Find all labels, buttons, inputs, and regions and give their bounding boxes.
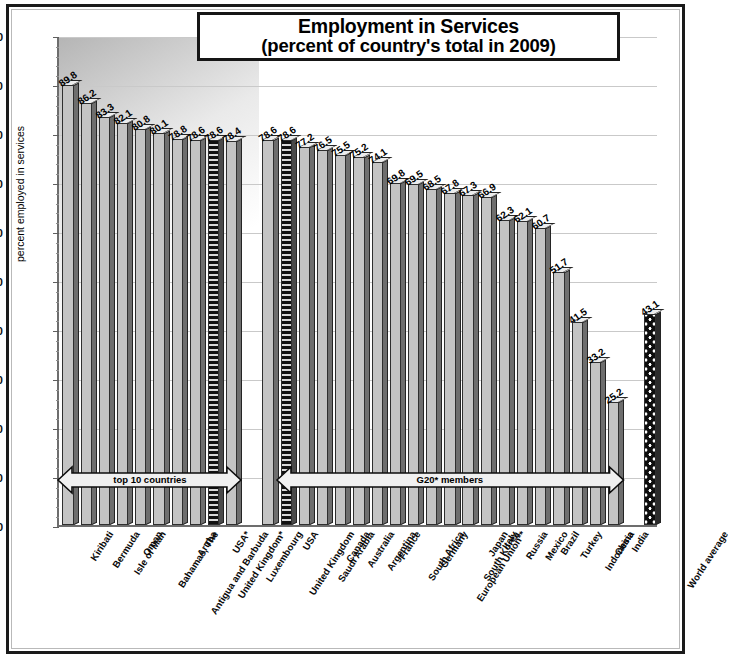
y-axis-minor-tick (56, 204, 59, 205)
bar-front-face (572, 322, 583, 525)
y-axis-minor-tick (56, 498, 59, 499)
y-axis-minor-tick (56, 507, 59, 508)
bar[interactable] (99, 117, 110, 525)
bar-side-face (656, 311, 661, 525)
y-axis-minor-tick (56, 458, 59, 459)
y-axis-minor-tick (56, 370, 59, 371)
y-axis-tick (53, 135, 59, 136)
bar-front-face (608, 402, 619, 525)
bar-slot (335, 37, 346, 525)
bar-front-face (62, 85, 73, 525)
bar-side-face (92, 100, 97, 525)
chart-title: Employment in Services (percent of count… (197, 12, 620, 61)
bar-slot (299, 37, 310, 525)
annotation-arrow: top 10 countries (58, 467, 241, 493)
y-axis-minor-tick (56, 302, 59, 303)
y-axis-minor-tick (56, 360, 59, 361)
annotation-arrow: G20* members (277, 467, 624, 493)
y-axis-tick-label: 0 (0, 521, 3, 533)
y-axis-minor-tick (56, 155, 59, 156)
bar-side-face (601, 360, 606, 525)
bar-slot (553, 37, 564, 525)
y-axis-minor-tick (56, 419, 59, 420)
y-axis-minor-tick (56, 439, 59, 440)
y-axis-tick (53, 184, 59, 185)
bar-slot (353, 37, 364, 525)
bar-slot (153, 37, 164, 525)
bar-front-face (99, 117, 110, 525)
bar-slot (208, 37, 219, 525)
bar-side-face (583, 319, 588, 525)
bar[interactable] (62, 85, 73, 525)
y-axis-tick (53, 331, 59, 332)
y-axis-tick (53, 37, 59, 38)
y-axis-tick (53, 86, 59, 87)
bar[interactable] (81, 103, 92, 525)
y-axis-tick-label: 20 (0, 423, 3, 435)
y-axis-tick-label: 30 (0, 374, 3, 386)
bar[interactable] (262, 140, 273, 525)
bar-front-face (117, 123, 128, 525)
y-axis-minor-tick (56, 272, 59, 273)
y-axis-tick (53, 282, 59, 283)
bar-front-face (644, 314, 655, 525)
bar-slot (572, 37, 583, 525)
bar-slot (590, 37, 601, 525)
y-axis-minor-tick (56, 243, 59, 244)
figure-caption (10, 658, 682, 666)
y-axis-minor-tick (56, 96, 59, 97)
bar-slot (372, 37, 383, 525)
plot-area: 0102030405060708090100 89.886.283.382.18… (57, 37, 657, 527)
bar[interactable] (572, 322, 583, 525)
bar-slot (517, 37, 528, 525)
bar-slot (408, 37, 419, 525)
bar-slot (262, 37, 273, 525)
y-axis-tick-label: 40 (0, 325, 3, 337)
bar-side-face (74, 83, 79, 525)
y-axis-tick-label: 10 (0, 472, 3, 484)
bar-series: 89.886.283.382.180.880.178.878.678.678.4… (59, 37, 657, 525)
chart-title-line2: (percent of country's total in 2009) (261, 37, 555, 56)
bar[interactable] (608, 402, 619, 525)
bar-side-face (146, 127, 151, 525)
y-axis-title: percent employed in services (14, 126, 26, 262)
y-axis-tick-label: 70 (0, 178, 3, 190)
y-axis-minor-tick (56, 115, 59, 116)
bar[interactable] (117, 123, 128, 525)
y-axis-minor-tick (56, 311, 59, 312)
bar-slot (135, 37, 146, 525)
x-axis-label: World average (685, 529, 730, 590)
bar-slot (81, 37, 92, 525)
bar-slot (62, 37, 73, 525)
bar-slot (535, 37, 546, 525)
y-axis-tick-label: 80 (0, 129, 3, 141)
y-axis-minor-tick (56, 321, 59, 322)
y-axis-minor-tick (56, 341, 59, 342)
bar-slot (444, 37, 455, 525)
y-axis-minor-tick (56, 47, 59, 48)
bar[interactable] (590, 362, 601, 525)
y-axis-tick-label: 90 (0, 80, 3, 92)
y-axis-minor-tick (56, 145, 59, 146)
bar-slot (426, 37, 437, 525)
bar[interactable] (135, 129, 146, 525)
bar-slot (317, 37, 328, 525)
bar-slot (281, 37, 292, 525)
y-axis-minor-tick (56, 174, 59, 175)
y-axis-minor-tick (56, 449, 59, 450)
y-axis-minor-tick (56, 106, 59, 107)
y-axis-tick (53, 527, 59, 528)
bar[interactable] (644, 314, 655, 525)
x-axis-label: Kiribati (88, 529, 115, 563)
y-axis-tick-label: 50 (0, 276, 3, 288)
y-axis-tick (53, 233, 59, 234)
y-axis-minor-tick (56, 125, 59, 126)
bar-slot (172, 37, 183, 525)
y-axis-tick-label: 100 (0, 31, 3, 43)
y-axis-minor-tick (56, 409, 59, 410)
bar-front-face (262, 140, 273, 525)
bar-side-face (128, 120, 133, 525)
chart-frame: Employment in Services (percent of count… (6, 4, 685, 654)
x-axis-label: USA (300, 529, 320, 552)
bar-front-face (81, 103, 92, 525)
